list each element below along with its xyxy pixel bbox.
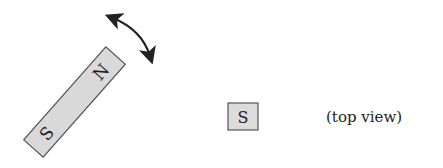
top-view-caption: (top view) <box>326 108 402 126</box>
diagram-canvas: N S S <box>0 0 443 168</box>
rotation-arrow-icon <box>113 18 150 56</box>
top-view-pole: S <box>228 103 258 130</box>
top-view-pole-label: S <box>238 108 249 127</box>
bar-magnet: N S <box>24 47 126 157</box>
